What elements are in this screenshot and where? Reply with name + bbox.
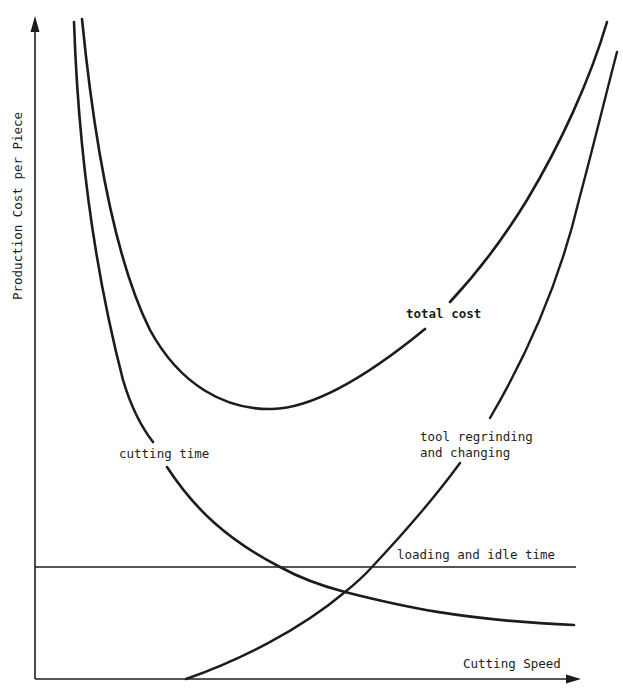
x-axis-arrowhead-icon bbox=[566, 675, 581, 684]
total-cost-curve bbox=[82, 19, 425, 409]
y-axis-label: Production Cost per Piece bbox=[10, 112, 25, 300]
total-cost-label: total cost bbox=[406, 305, 481, 322]
tool-regrinding-curve-upper bbox=[490, 52, 617, 418]
tool-regrinding-label-line2: and changing bbox=[420, 444, 510, 461]
x-axis-label: Cutting Speed bbox=[463, 655, 561, 672]
y-axis-arrowhead-icon bbox=[31, 16, 40, 32]
loading-idle-label: loading and idle time bbox=[397, 546, 555, 563]
tool-regrinding-curve bbox=[186, 463, 460, 679]
cutting-time-label: cutting time bbox=[119, 445, 209, 462]
tool-regrinding-label-line1: tool regrinding bbox=[420, 428, 533, 445]
total-cost-curve-upper bbox=[450, 22, 607, 302]
cutting-time-curve bbox=[74, 22, 153, 442]
cost-vs-speed-chart bbox=[0, 0, 623, 697]
